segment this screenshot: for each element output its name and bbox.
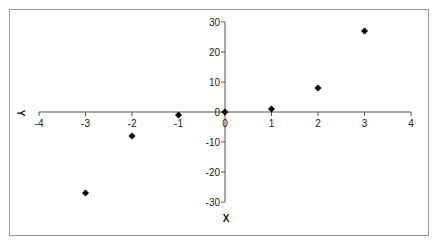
y-tick-label: 30	[209, 17, 221, 28]
x-tick-label: 3	[362, 118, 368, 129]
y-tick-label: -10	[206, 137, 221, 148]
diamond-marker-icon	[315, 85, 322, 92]
x-tick-label: 2	[315, 118, 321, 129]
x-tick-label: 1	[269, 118, 275, 129]
y-tick-label: 20	[209, 47, 221, 58]
diamond-marker-icon	[82, 190, 89, 197]
x-tick-label: 4	[408, 118, 414, 129]
x-tick-label: 0	[222, 118, 228, 129]
y-tick-label: -30	[206, 197, 221, 208]
diamond-marker-icon	[361, 28, 368, 35]
y-tick-label: 0	[214, 107, 220, 118]
vertical-axis-title: X	[223, 213, 230, 224]
horizontal-axis-title: Y	[15, 110, 26, 117]
x-tick-label: -3	[81, 118, 90, 129]
x-tick-label: -1	[174, 118, 183, 129]
diamond-marker-icon	[268, 106, 275, 113]
y-tick-label: 10	[209, 77, 221, 88]
x-tick-label: -4	[35, 118, 44, 129]
diamond-marker-icon	[129, 133, 136, 140]
y-tick-label: -20	[206, 167, 221, 178]
scatter-chart: -4-3-2-1012343020100-10-20-30 Y X	[0, 0, 435, 240]
x-tick-label: -2	[128, 118, 137, 129]
diamond-marker-icon	[222, 109, 229, 116]
